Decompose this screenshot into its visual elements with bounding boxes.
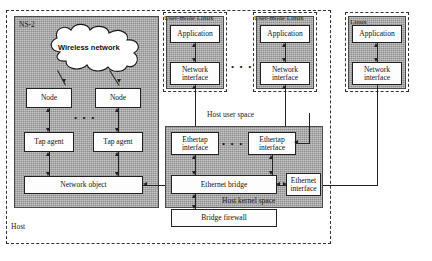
uml-ellipsis: • • • (231, 62, 253, 72)
netobj-bridge-arrow-left (143, 182, 147, 186)
uml-1-nic-line2: interface (182, 74, 208, 82)
host-kernel-space-label: Host kernel space (222, 196, 275, 205)
ethertap-interface-1: Ethertap interface (171, 132, 219, 155)
network-object-box: Network object (24, 176, 143, 194)
uml-1-label: User-mode Linux (164, 14, 213, 22)
uml-1-app-nic-arrow-up (192, 43, 196, 47)
host-user-space-label: Host user space (207, 110, 254, 119)
bridge-ethif-arrow-left (276, 182, 280, 186)
uml-2-nic-line2: interface (272, 74, 298, 82)
ns2-node-2: Node (95, 88, 141, 108)
ns2-node-1: Node (26, 88, 72, 108)
uml2-feed-arrow (294, 140, 298, 144)
uml-2-network-interface: Network interface (260, 62, 310, 85)
uml-1-network-interface: Network interface (170, 62, 220, 85)
linux-to-ethif-hline (320, 185, 378, 186)
cloud-to-node-right-arrow (117, 79, 121, 83)
ethernet-interface-box: Ethernet interface (286, 173, 321, 196)
bridge-firewall-box: Bridge firewall (171, 209, 277, 227)
linux-app-nic-arrow-up (374, 43, 378, 47)
uml2-ethertap2-arrow-up (282, 85, 286, 89)
linux-nic-line2: interface (364, 74, 390, 82)
bridge-firewall-arrow-up (192, 194, 196, 198)
ns2-tap-agent-2: Tap agent (93, 132, 143, 152)
uml2-feed-hline (296, 143, 310, 144)
uml2-ethertap2-line (285, 85, 286, 132)
ethertap-1-line2: interface (182, 144, 208, 152)
linux-application: Application (352, 25, 402, 43)
uml-2-label: User-mode Linux (254, 14, 303, 22)
uml-2-app-nic-arrow-up (282, 43, 286, 47)
ethertap-2-line2: interface (259, 144, 285, 152)
node2-tap2-arrow-up (115, 108, 119, 112)
ethernet-bridge-box: Ethernet bridge (171, 175, 277, 194)
uml-2-application: Application (260, 25, 310, 43)
uml1-ethertap1-line (195, 85, 196, 132)
uml2-feed-vline (309, 113, 310, 144)
node1-tap1-arrow-up (46, 108, 50, 112)
linux-to-ethif-vline (377, 85, 378, 185)
ethertap2-bridge-arrow-up (269, 155, 273, 159)
ethernet-interface-line2: interface (290, 185, 316, 193)
cloud-to-node-left-arrow (62, 79, 66, 83)
diagram-canvas: Host NS-2 Wireless network Node Node • •… (0, 0, 432, 261)
ns2-label: NS-2 (19, 20, 35, 29)
host-label: Host (11, 222, 25, 231)
ns2-tap-agent-1: Tap agent (24, 132, 74, 152)
tap1-netobj-arrow-up (46, 152, 50, 156)
ethertap-ellipsis: • • • (222, 139, 244, 149)
tap2-netobj-arrow-up (115, 152, 119, 156)
ethertap1-bridge-arrow-up (192, 155, 196, 159)
uml1-ethertap1-arrow-up (192, 85, 196, 89)
uml-1-application: Application (170, 25, 220, 43)
ns2-ellipsis: • • • (74, 113, 96, 123)
linux-network-interface: Network interface (352, 62, 402, 85)
wireless-network-label: Wireless network (58, 43, 120, 52)
ethertap-interface-2: Ethertap interface (248, 132, 296, 155)
